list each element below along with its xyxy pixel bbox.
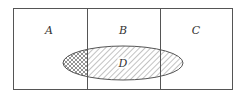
- ellipse-label-d: D: [118, 58, 129, 69]
- region-label-a: A: [45, 25, 53, 36]
- region-label-b: B: [119, 25, 127, 36]
- partition-diagram: A B C D: [0, 0, 247, 95]
- region-label-c: C: [192, 25, 200, 36]
- diagram-graphic: [0, 0, 247, 95]
